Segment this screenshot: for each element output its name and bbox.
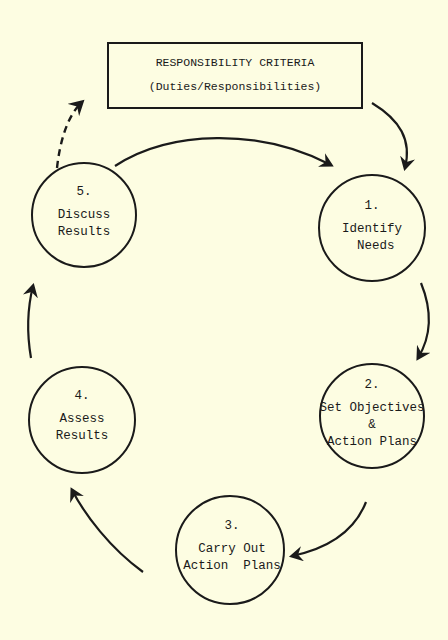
arrow-step3-to-step4 xyxy=(72,490,143,572)
step-1-label: 1. Identify Needs xyxy=(342,198,402,255)
step-2-line-1: Set Objectives xyxy=(319,400,424,417)
step-2-line-2: & xyxy=(319,417,424,434)
step-4-label: 4. Assess Results xyxy=(56,388,109,445)
arrow-step4-to-step5 xyxy=(28,286,33,358)
arrow-box-to-step1 xyxy=(372,103,407,168)
arrow-step5-to-box-dashed xyxy=(57,102,82,168)
arrow-step1-to-step2 xyxy=(418,283,429,358)
step-4-number: 4. xyxy=(56,388,109,405)
step-2-number: 2. xyxy=(319,377,424,394)
step-1-line-1: Identify xyxy=(342,221,402,238)
step-2-label: 2. Set Objectives & Action Plans xyxy=(319,377,424,451)
step-3-line-1: Carry Out xyxy=(183,541,281,558)
criteria-subtitle: (Duties/Responsibilities) xyxy=(108,75,362,99)
step-2-line-3: Action Plans xyxy=(319,434,424,451)
step-4-line-1: Assess xyxy=(56,411,109,428)
step-1-line-2: Needs xyxy=(342,238,402,255)
step-5-line-2: Results xyxy=(58,224,111,241)
criteria-title: RESPONSIBILITY CRITERIA xyxy=(108,51,362,75)
criteria-box-label: RESPONSIBILITY CRITERIA (Duties/Responsi… xyxy=(108,43,362,108)
step-4-line-2: Results xyxy=(56,428,109,445)
step-3-line-2: Action Plans xyxy=(183,558,281,575)
step-5-label: 5. Discuss Results xyxy=(58,184,111,241)
step-3-label: 3. Carry Out Action Plans xyxy=(183,518,281,575)
step-5-line-1: Discuss xyxy=(58,207,111,224)
step-3-number: 3. xyxy=(183,518,281,535)
step-5-number: 5. xyxy=(58,184,111,201)
step-1-number: 1. xyxy=(342,198,402,215)
arrow-step2-to-step3 xyxy=(292,502,366,556)
arrow-step5-to-step1 xyxy=(115,138,331,166)
